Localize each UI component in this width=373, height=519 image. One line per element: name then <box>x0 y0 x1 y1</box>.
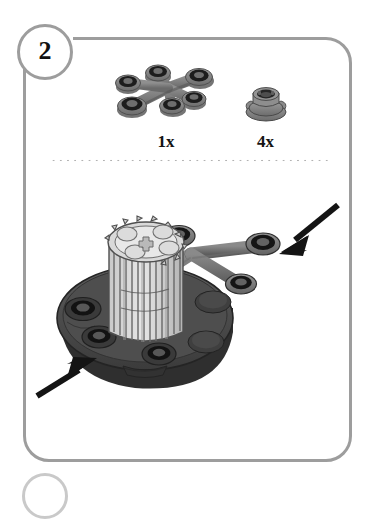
assembly-illustration <box>23 182 352 422</box>
parts-bin: 1x <box>23 50 352 162</box>
next-step-circle-peek <box>22 473 68 519</box>
parts-bin-divider <box>50 159 331 162</box>
ribbed-gear-cylinder <box>105 216 187 342</box>
part-slot-round-tabbed-stud: 4x <box>218 82 313 152</box>
part-quantity-label: 4x <box>218 132 313 152</box>
assembly-arrow-bottom-left <box>37 357 97 396</box>
branched-connector-plate-icon <box>110 54 222 132</box>
round-tabbed-stud-icon <box>239 82 293 132</box>
assembly-arrow-top-right <box>279 205 338 256</box>
part-slot-branched-connector-plate: 1x <box>101 54 231 152</box>
assembly-drawing <box>23 182 352 422</box>
part-quantity-label: 1x <box>101 132 231 152</box>
